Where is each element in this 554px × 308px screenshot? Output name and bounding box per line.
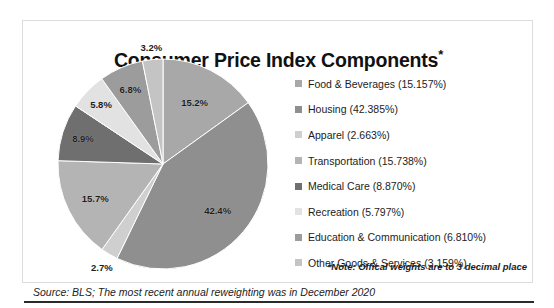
pie-slice-label: 5.8% xyxy=(90,99,112,110)
legend-item[interactable]: Recreation (5.797%) xyxy=(295,199,527,225)
chart-frame: Consumer Price Index Components* 15.2%42… xyxy=(22,20,533,283)
pie-slice-label: 42.4% xyxy=(204,204,231,215)
legend-item-label: Apparel (2.663%) xyxy=(308,129,390,141)
chart-title-asterisk: * xyxy=(438,47,443,62)
legend-item-label: Recreation (5.797%) xyxy=(308,206,404,218)
legend-item-label: Transportation (15.738%) xyxy=(308,155,427,167)
legend-item-label: Food & Beverages (15.157%) xyxy=(308,78,446,90)
pie-slice-label: 3.2% xyxy=(141,41,163,52)
legend-item[interactable]: Transportation (15.738%) xyxy=(295,148,527,174)
legend-swatch-icon xyxy=(295,234,302,241)
pie-slice-label: 15.7% xyxy=(82,192,109,203)
chart-legend: Food & Beverages (15.157%)Housing (42.38… xyxy=(295,71,527,276)
pie-slice-label: 6.8% xyxy=(120,83,142,94)
legend-item[interactable]: Housing (42.385%) xyxy=(295,97,527,123)
legend-item-label: Medical Care (8.870%) xyxy=(308,180,415,192)
legend-swatch-icon xyxy=(295,131,302,138)
legend-swatch-icon xyxy=(295,157,302,164)
source-caption: Source: BLS; The most recent annual rewe… xyxy=(33,286,375,298)
legend-item-label: Education & Communication (6.810%) xyxy=(308,231,486,243)
pie-chart-svg xyxy=(57,58,269,270)
pie-slice-label: 15.2% xyxy=(181,97,208,108)
chart-note: *Note: Offical weights are to 3 decimal … xyxy=(271,261,527,272)
legend-swatch-icon xyxy=(295,208,302,215)
pie-slice-label: 2.7% xyxy=(91,261,113,272)
bottom-divider xyxy=(24,301,534,303)
pie-chart: 15.2%42.4%2.7%15.7%8.9%5.8%6.8%3.2% xyxy=(57,58,269,270)
legend-item[interactable]: Food & Beverages (15.157%) xyxy=(295,71,527,97)
legend-swatch-icon xyxy=(295,80,302,87)
pie-slices xyxy=(58,59,268,269)
legend-swatch-icon xyxy=(295,106,302,113)
legend-item[interactable]: Apparel (2.663%) xyxy=(295,122,527,148)
legend-swatch-icon xyxy=(295,183,302,190)
legend-item-label: Housing (42.385%) xyxy=(308,103,398,115)
pie-slice-label: 8.9% xyxy=(72,133,94,144)
legend-item[interactable]: Education & Communication (6.810%) xyxy=(295,225,527,251)
legend-item[interactable]: Medical Care (8.870%) xyxy=(295,173,527,199)
